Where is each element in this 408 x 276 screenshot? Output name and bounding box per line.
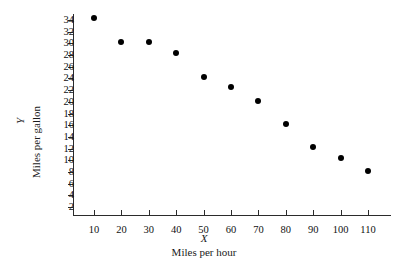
y-tick-label: 18 [52,109,74,119]
y-tick-label-wrap: 32 [38,27,74,37]
x-tick-mark [176,210,177,216]
x-tick-mark [341,210,342,216]
y-tick-label: 20 [52,97,74,107]
y-tick-label-wrap: 10 [38,155,74,165]
data-point [310,144,316,150]
y-tick-label: 8 [52,167,74,177]
y-tick-label: 6 [52,179,74,189]
y-tick-label: 26 [52,62,74,72]
x-tick-mark [258,210,259,216]
y-tick-label-wrap: 20 [38,97,74,107]
y-tick-label: 10 [52,155,74,165]
y-axis-symbol: Y [14,118,26,124]
x-tick-mark [231,210,232,216]
y-tick-label-wrap: 12 [38,144,74,154]
y-tick-label: 22 [52,85,74,95]
x-tick-mark [286,210,287,216]
data-point [228,84,234,90]
y-tick-label-wrap: 34 [38,15,74,25]
y-tick-label-wrap: 26 [38,62,74,72]
y-tick-label: 12 [52,144,74,154]
y-tick-label: 2 [52,202,74,212]
x-axis-symbol: X [0,232,408,244]
data-point [146,39,152,45]
data-point [91,15,97,21]
y-tick-label: 28 [52,50,74,60]
x-tick-mark [149,210,150,216]
x-tick-mark [94,210,95,216]
y-tick-label-wrap: 18 [38,109,74,119]
x-tick-mark [313,210,314,216]
y-tick-label: 4 [52,190,74,200]
data-point [255,98,261,104]
y-tick-label: 30 [52,38,74,48]
plot-area: 246810121416182022242628303234 102030405… [0,0,408,276]
data-point [365,168,371,174]
y-tick-label-wrap: 8 [38,167,74,177]
y-tick-label-wrap: 28 [38,50,74,60]
y-tick-label-wrap: 22 [38,85,74,95]
y-tick-label-wrap: 2 [38,202,74,212]
x-tick-mark [121,210,122,216]
y-axis-title: Miles per gallon [30,106,42,178]
data-point [283,121,289,127]
y-tick-label-wrap: 24 [38,73,74,83]
x-axis-title: Miles per hour [0,246,408,258]
data-point [201,74,207,80]
y-tick-label: 16 [52,120,74,130]
y-tick-label-wrap: 4 [38,190,74,200]
y-tick-label: 32 [52,27,74,37]
data-point [118,39,124,45]
x-tick-mark [204,210,205,216]
data-point [173,50,179,56]
y-tick-label-wrap: 30 [38,38,74,48]
y-tick-label-wrap: 16 [38,120,74,130]
y-tick-label: 14 [52,132,74,142]
x-tick-mark [368,210,369,216]
y-tick-label: 24 [52,73,74,83]
y-tick-label: 34 [52,15,74,25]
data-point [338,155,344,161]
y-tick-label-wrap: 14 [38,132,74,142]
scatter-plot-figure: 246810121416182022242628303234 102030405… [0,0,408,276]
y-tick-label-wrap: 6 [38,179,74,189]
